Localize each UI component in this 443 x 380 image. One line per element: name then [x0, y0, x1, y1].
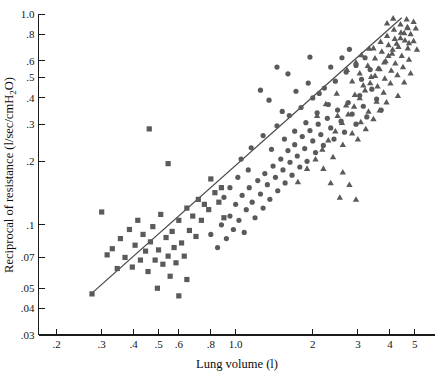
data-point-triangle	[383, 99, 389, 105]
data-point-circle	[359, 77, 364, 82]
data-point-circle	[331, 136, 336, 141]
data-point-square	[105, 252, 110, 257]
data-point-square	[212, 190, 217, 195]
data-point-circle	[247, 185, 252, 190]
data-point-square	[150, 224, 155, 229]
data-point-circle	[274, 64, 279, 69]
data-point-circle	[238, 156, 243, 161]
x-axis-tick-label: .4	[130, 338, 139, 350]
data-point-triangle	[334, 90, 340, 96]
data-point-triangle	[407, 70, 413, 76]
data-point-square	[171, 245, 176, 250]
data-point-circle	[333, 79, 338, 84]
data-point-circle	[293, 89, 298, 94]
data-point-triangle	[397, 21, 403, 27]
data-point-square	[118, 236, 123, 241]
data-markers-group	[89, 15, 420, 298]
x-axis-tick-label: 4	[387, 338, 393, 350]
data-point-circle	[255, 178, 260, 183]
data-point-square	[160, 262, 165, 267]
data-point-triangle	[357, 70, 363, 76]
data-point-square	[155, 286, 160, 291]
axes-group	[39, 14, 436, 335]
data-point-square	[153, 257, 158, 262]
y-axis-tick-label: .05	[21, 282, 35, 294]
data-point-circle	[318, 132, 323, 137]
data-point-triangle	[346, 182, 352, 188]
data-point-square	[176, 293, 181, 298]
data-point-triangle	[394, 72, 400, 78]
data-point-triangle	[358, 119, 364, 125]
data-point-circle	[235, 175, 240, 180]
data-point-circle	[310, 138, 315, 143]
x-axis-tick-label: 1.0	[229, 338, 243, 350]
y-axis-tick-label: .1	[26, 219, 34, 231]
data-point-square	[196, 197, 201, 202]
data-point-square	[168, 274, 173, 279]
data-point-circle	[292, 129, 297, 134]
data-point-circle	[364, 114, 369, 119]
data-point-square	[199, 218, 204, 223]
data-point-circle	[297, 164, 302, 169]
data-point-triangle	[413, 25, 419, 31]
data-point-square	[219, 185, 224, 190]
data-point-triangle	[328, 180, 334, 186]
data-point-square	[122, 255, 127, 260]
data-point-square	[147, 126, 152, 131]
data-point-circle	[278, 156, 283, 161]
data-point-square	[163, 235, 168, 240]
data-point-circle	[285, 71, 290, 76]
data-point-triangle	[334, 112, 340, 118]
data-point-circle	[265, 182, 270, 187]
data-point-circle	[208, 232, 213, 237]
data-point-square	[206, 207, 211, 212]
data-point-triangle	[362, 87, 368, 93]
data-point-triangle	[380, 89, 386, 95]
data-point-square	[115, 266, 120, 271]
data-point-circle	[274, 123, 279, 128]
data-point-circle	[298, 105, 303, 110]
data-point-circle	[328, 125, 333, 130]
data-point-triangle	[332, 128, 338, 134]
data-point-circle	[310, 95, 315, 100]
data-point-square	[143, 249, 148, 254]
data-point-circle	[313, 150, 318, 155]
data-point-triangle	[304, 165, 310, 171]
data-point-circle	[246, 167, 251, 172]
y-axis-tick-label: .04	[21, 302, 35, 314]
axis-tick-labels-group: 1.0.8.6.5.4.3.2.1.07.05.04.03.2.3.4.5.6.…	[21, 8, 418, 350]
data-point-triangle	[358, 52, 364, 58]
data-point-circle	[285, 148, 290, 153]
data-point-triangle	[352, 91, 358, 97]
data-point-circle	[221, 195, 226, 200]
data-point-circle	[335, 108, 340, 113]
x-axis-title: Lung volume (l)	[196, 357, 278, 371]
data-point-square	[110, 246, 115, 251]
data-point-circle	[242, 230, 247, 235]
y-axis-tick-label: .4	[26, 92, 35, 104]
data-point-circle	[244, 207, 249, 212]
data-point-circle	[303, 120, 308, 125]
data-point-triangle	[397, 35, 403, 41]
data-point-circle	[269, 147, 274, 152]
y-axis-tick-label: .6	[26, 55, 35, 67]
data-point-circle	[289, 173, 294, 178]
data-point-triangle	[384, 20, 390, 26]
data-point-triangle	[295, 179, 301, 185]
data-point-triangle	[410, 38, 416, 44]
data-point-square	[208, 176, 213, 181]
data-point-circle	[292, 142, 297, 147]
data-point-circle	[262, 171, 267, 176]
data-point-circle	[273, 175, 278, 180]
data-point-circle	[295, 153, 300, 158]
data-point-triangle	[365, 62, 371, 68]
data-point-square	[221, 215, 226, 220]
data-point-triangle	[349, 130, 355, 136]
data-point-square	[166, 254, 171, 259]
data-point-square	[138, 257, 143, 262]
data-point-triangle	[367, 80, 373, 86]
y-axis-tick-label: .03	[21, 329, 35, 341]
y-axis-tick-label: .2	[26, 155, 34, 167]
data-point-triangle	[351, 103, 357, 109]
data-point-triangle	[399, 52, 405, 58]
